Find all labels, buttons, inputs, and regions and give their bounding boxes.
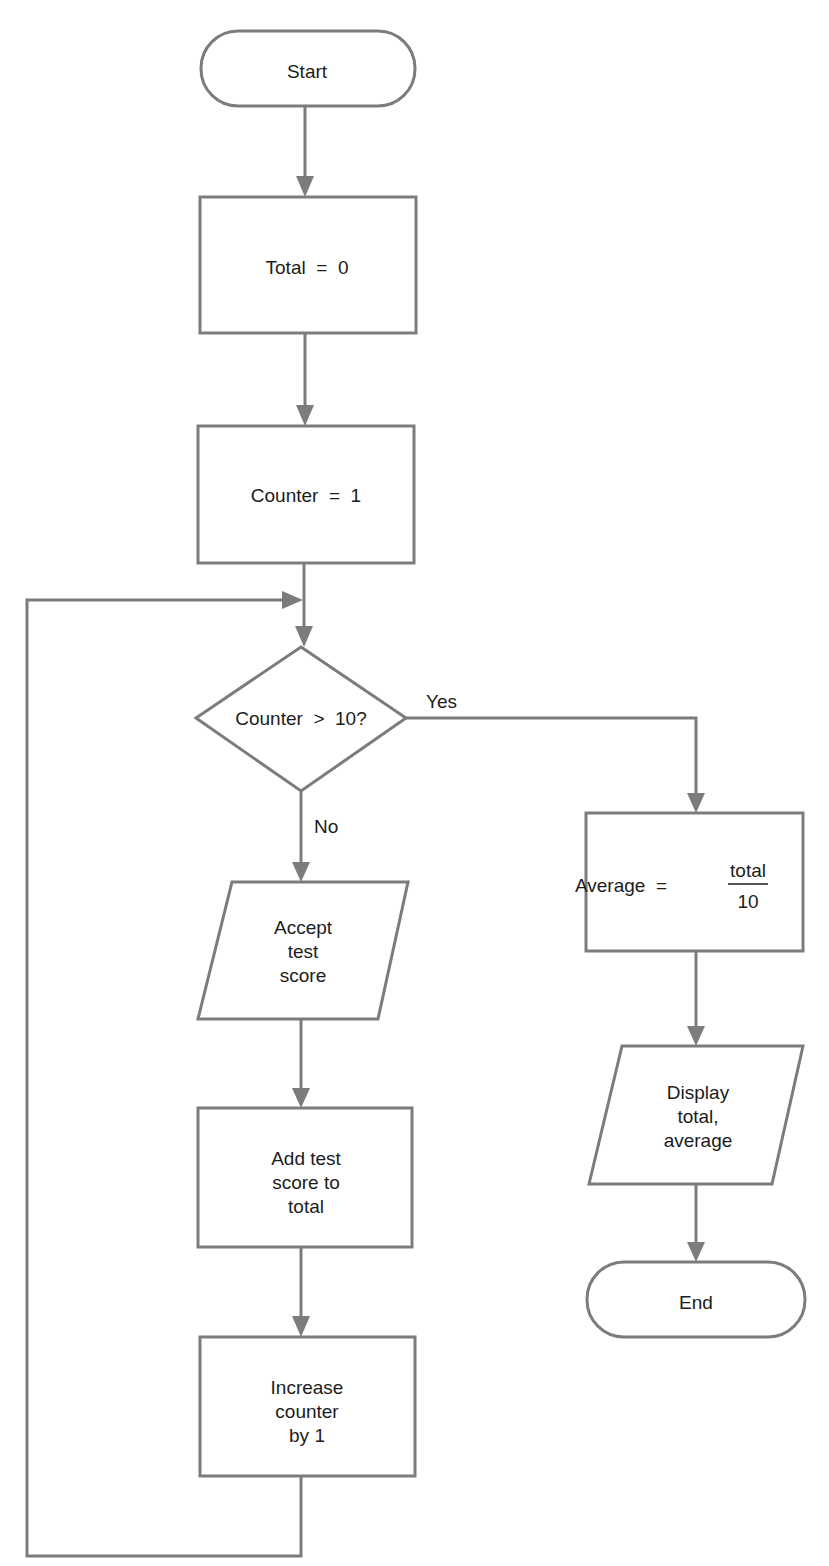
node-accept: Accept test score — [198, 882, 408, 1019]
node-decision-label: Counter > 10? — [235, 708, 367, 729]
arrowhead — [296, 176, 314, 197]
node-end-label: End — [679, 1292, 713, 1313]
arrowhead — [687, 1242, 705, 1262]
node-increase-line-3: by 1 — [289, 1425, 325, 1446]
node-add-line-2: score to — [272, 1172, 340, 1193]
node-increase-line-2: counter — [275, 1401, 339, 1422]
arrowhead — [296, 405, 314, 426]
node-counter-init-label: Counter = 1 — [251, 485, 361, 506]
node-end: End — [587, 1262, 805, 1337]
arrowhead — [687, 1026, 705, 1046]
node-average: Average = total 10 — [575, 813, 803, 951]
flowchart-canvas: Yes No Start Total = 0 Counter = 1 Count… — [0, 0, 829, 1566]
arrowhead — [295, 626, 313, 647]
arrowhead — [282, 591, 303, 609]
node-total-init: Total = 0 — [200, 197, 416, 333]
arrowhead — [687, 793, 705, 813]
node-start-label: Start — [287, 61, 328, 82]
node-decision: Counter > 10? — [196, 647, 406, 791]
node-total-init-label: Total = 0 — [266, 257, 349, 278]
node-add: Add test score to total — [198, 1108, 412, 1247]
edge-label-yes: Yes — [426, 691, 457, 712]
edge-label-no: No — [314, 816, 338, 837]
node-add-line-1: Add test — [271, 1148, 341, 1169]
arrowhead — [292, 1316, 310, 1337]
arrowhead — [292, 1088, 310, 1108]
node-display-line-3: average — [664, 1130, 733, 1151]
node-display: Display total, average — [589, 1046, 803, 1184]
node-accept-line-3: score — [280, 965, 326, 986]
node-add-line-3: total — [288, 1196, 324, 1217]
arrowhead — [292, 862, 310, 882]
node-average-prefix: Average = — [575, 875, 667, 896]
node-average-denominator: 10 — [737, 891, 758, 912]
node-display-line-1: Display — [667, 1082, 730, 1103]
node-accept-line-2: test — [288, 941, 319, 962]
node-display-line-2: total, — [677, 1106, 718, 1127]
edge-decision-to-average — [406, 718, 696, 797]
node-increase-line-1: Increase — [271, 1377, 344, 1398]
node-counter-init: Counter = 1 — [198, 426, 414, 563]
node-average-numerator: total — [730, 860, 766, 881]
node-increase: Increase counter by 1 — [200, 1337, 415, 1476]
node-start: Start — [201, 31, 415, 106]
node-accept-line-1: Accept — [274, 917, 333, 938]
